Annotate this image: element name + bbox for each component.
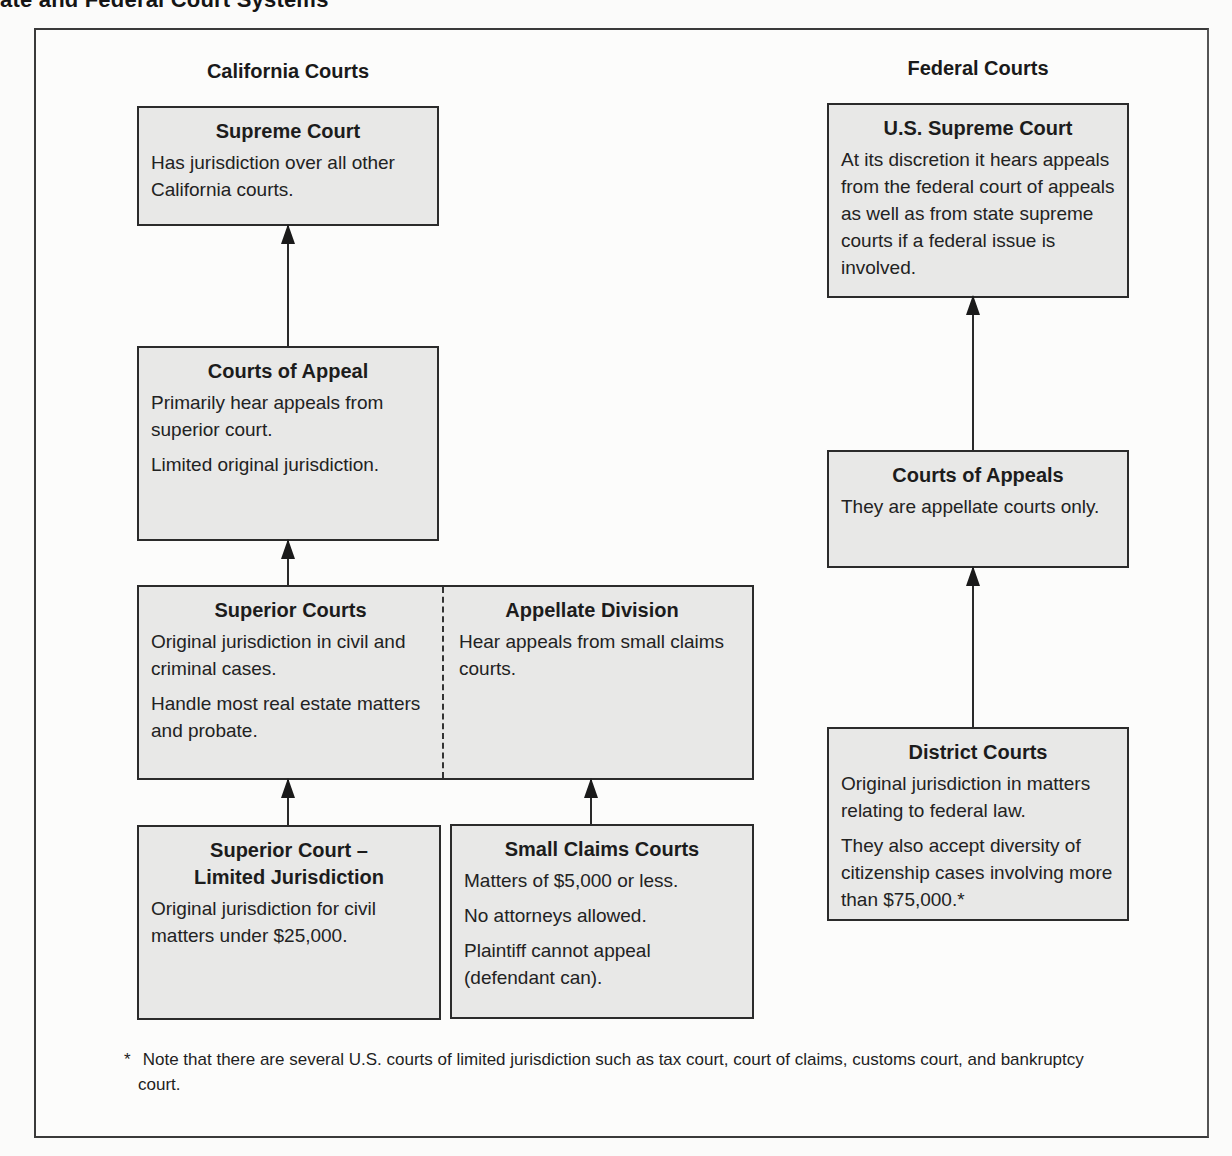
- federal-courts-of-appeals-desc: They are appellate courts only.: [841, 493, 1115, 520]
- arrow-head-icon: [281, 224, 295, 244]
- small-claims-desc-2: No attorneys allowed.: [464, 902, 740, 929]
- arrow-head-icon: [966, 295, 980, 315]
- appellate-division-title: Appellate Division: [444, 597, 740, 624]
- small-claims-desc-1: Matters of $5,000 or less.: [464, 867, 740, 894]
- small-claims-title: Small Claims Courts: [464, 836, 740, 863]
- federal-courts-heading: Federal Courts: [827, 57, 1129, 80]
- superior-courts-title: Superior Courts: [151, 597, 430, 624]
- arrow-head-icon: [584, 778, 598, 798]
- ca-courts-of-appeal-box: Courts of Appeal Primarily hear appeals …: [137, 346, 439, 541]
- superior-courts-desc-2: Handle most real estate matters and prob…: [151, 690, 430, 744]
- arrow-small-claims-to-appellate: [590, 780, 592, 825]
- ca-courts-of-appeal-desc-1: Primarily hear appeals from superior cou…: [151, 389, 425, 443]
- arrow-head-icon: [966, 566, 980, 586]
- ca-supreme-court-title: Supreme Court: [151, 118, 425, 145]
- limited-jurisdiction-title-2: Limited Jurisdiction: [151, 864, 427, 891]
- superior-courts-desc-1: Original jurisdiction in civil and crimi…: [151, 628, 430, 682]
- federal-courts-of-appeals-title: Courts of Appeals: [841, 462, 1115, 489]
- footnote-text: Note that there are several U.S. courts …: [138, 1050, 1084, 1094]
- appellate-division-desc: Hear appeals from small claims courts.: [459, 628, 740, 682]
- federal-courts-of-appeals-box: Courts of Appeals They are appellate cou…: [827, 450, 1129, 568]
- ca-superior-appellate-box: Superior Courts Original jurisdiction in…: [137, 585, 754, 780]
- ca-courts-of-appeal-title: Courts of Appeal: [151, 358, 425, 385]
- arrow-appeal-to-supreme: [287, 226, 289, 347]
- ca-small-claims-box: Small Claims Courts Matters of $5,000 or…: [450, 824, 754, 1019]
- footnote: * Note that there are several U.S. court…: [138, 1047, 1098, 1097]
- arrow-superior-to-appeal: [287, 541, 289, 586]
- us-supreme-court-desc: At its discretion it hears appeals from …: [841, 146, 1115, 281]
- page-title: ate and Federal Court Systems: [0, 0, 329, 13]
- limited-jurisdiction-title-1: Superior Court –: [151, 837, 427, 864]
- us-supreme-court-title: U.S. Supreme Court: [841, 115, 1115, 142]
- arrow-district-to-appeals: [972, 568, 974, 728]
- superior-courts-section: Superior Courts Original jurisdiction in…: [139, 587, 442, 778]
- arrow-limited-to-superior: [287, 780, 289, 825]
- us-supreme-court-box: U.S. Supreme Court At its discretion it …: [827, 103, 1129, 298]
- small-claims-desc-3: Plaintiff cannot appeal (defendant can).: [464, 937, 740, 991]
- arrow-head-icon: [281, 539, 295, 559]
- footnote-marker: *: [124, 1047, 138, 1072]
- ca-courts-of-appeal-desc-2: Limited original jurisdiction.: [151, 451, 425, 478]
- limited-jurisdiction-desc: Original jurisdiction for civil matters …: [151, 895, 427, 949]
- ca-supreme-court-desc: Has jurisdiction over all other Californ…: [151, 149, 425, 203]
- arrow-head-icon: [281, 778, 295, 798]
- district-courts-desc-1: Original jurisdiction in matters relatin…: [841, 770, 1115, 824]
- ca-supreme-court-box: Supreme Court Has jurisdiction over all …: [137, 106, 439, 226]
- california-courts-heading: California Courts: [137, 60, 439, 83]
- district-courts-box: District Courts Original jurisdiction in…: [827, 727, 1129, 921]
- arrow-appeals-to-us-supreme: [972, 297, 974, 451]
- ca-limited-jurisdiction-box: Superior Court – Limited Jurisdiction Or…: [137, 825, 441, 1020]
- district-courts-title: District Courts: [841, 739, 1115, 766]
- district-courts-desc-2: They also accept diversity of citizenshi…: [841, 832, 1115, 913]
- appellate-division-section: Appellate Division Hear appeals from sma…: [444, 587, 752, 778]
